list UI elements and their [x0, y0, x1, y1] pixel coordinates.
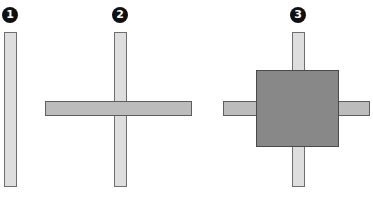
step-2-badge: 2: [112, 7, 128, 23]
panel-3-center-square: [256, 70, 339, 147]
step-3-badge: 3: [290, 7, 306, 23]
step-1-badge: 1: [2, 7, 18, 23]
panel-2-horizontal-bar: [45, 101, 192, 116]
panel-1-vertical-bar: [4, 32, 17, 187]
